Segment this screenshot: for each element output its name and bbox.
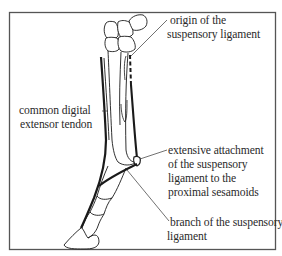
diagram-figure: origin of the suspensory ligament common… <box>0 0 282 256</box>
label-extensor: common digital extensor tendon <box>19 104 93 131</box>
label-origin: origin of the suspensory ligament <box>167 14 261 41</box>
label-origin-line-1: origin of the <box>170 14 226 27</box>
label-attachment-line-3: ligament to the <box>168 172 236 185</box>
label-attachment-line-2: of the suspensory <box>168 158 248 171</box>
label-attachment-line-1: extensive attachment <box>168 144 264 157</box>
label-extensor-line-2: extensor tendon <box>20 118 93 131</box>
label-origin-line-2: suspensory ligament <box>167 28 261 41</box>
label-branch: branch of the suspensory ligament <box>167 216 282 243</box>
label-branch-line-2: ligament <box>167 230 208 243</box>
label-attachment: extensive attachment of the suspensory l… <box>168 144 264 199</box>
leader-attachment <box>140 150 167 159</box>
label-attachment-line-4: proximal sesamoids <box>168 186 259 199</box>
leader-branch <box>127 170 169 221</box>
label-extensor-line-1: common digital <box>19 104 91 117</box>
diagram-canvas: origin of the suspensory ligament common… <box>0 0 282 256</box>
figure-frame <box>10 13 276 250</box>
label-branch-line-1: branch of the suspensory <box>170 216 282 229</box>
pastern-and-hoof <box>64 166 126 249</box>
